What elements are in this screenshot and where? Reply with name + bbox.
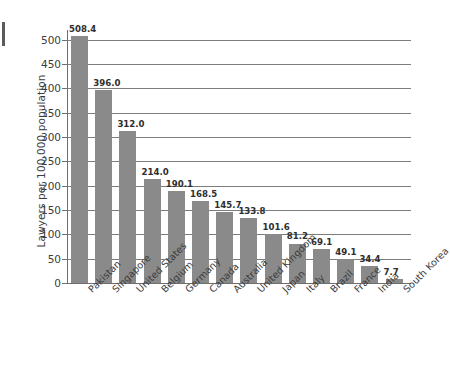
y-axis-tick-label: 100 xyxy=(21,229,61,240)
bar-value-label: 101.6 xyxy=(263,223,290,232)
y-axis-tick-label: 300 xyxy=(21,132,61,143)
bar-value-label: 214.0 xyxy=(142,168,169,177)
bar-value-label: 396.0 xyxy=(93,79,120,88)
bar[interactable] xyxy=(71,36,88,283)
gridline xyxy=(67,113,411,114)
gridline xyxy=(67,64,411,65)
y-axis-tick-mark xyxy=(62,283,67,284)
y-axis-tick-label: 150 xyxy=(21,205,61,216)
bar-value-label: 190.1 xyxy=(166,180,193,189)
y-axis-tick-label: 350 xyxy=(21,108,61,119)
bar[interactable] xyxy=(119,131,136,283)
gridline xyxy=(67,40,411,41)
bar-value-label: 49.1 xyxy=(335,248,356,257)
y-axis-tick-label: 0 xyxy=(21,278,61,289)
y-axis-tick-label: 400 xyxy=(21,83,61,94)
y-axis-tick-mark xyxy=(62,210,67,211)
bar-value-label: 508.4 xyxy=(69,25,96,34)
y-axis-tick-mark xyxy=(62,137,67,138)
scan-edge-artifact xyxy=(2,22,5,46)
y-axis-tick-mark xyxy=(62,234,67,235)
y-axis-tick-mark xyxy=(62,161,67,162)
y-axis-tick-label: 450 xyxy=(21,59,61,70)
y-axis-tick-mark xyxy=(62,259,67,260)
y-axis-tick-mark xyxy=(62,186,67,187)
y-axis-tick-label: 500 xyxy=(21,35,61,46)
bar-value-label: 34.4 xyxy=(359,255,380,264)
bar-value-label: 145.7 xyxy=(214,201,241,210)
y-axis-tick-label: 50 xyxy=(21,254,61,265)
bar[interactable] xyxy=(95,90,112,283)
y-axis-tick-mark xyxy=(62,64,67,65)
plot-area: 508.4396.0312.0214.0190.1168.5145.7133.8… xyxy=(67,30,411,283)
bar-value-label: 312.0 xyxy=(117,120,144,129)
y-axis-tick-label: 200 xyxy=(21,181,61,192)
bar-value-label: 168.5 xyxy=(190,190,217,199)
y-axis-tick-mark xyxy=(62,88,67,89)
bar-value-label: 133.8 xyxy=(238,207,265,216)
gridline xyxy=(67,88,411,89)
y-axis-tick-mark xyxy=(62,113,67,114)
y-axis-tick-mark xyxy=(62,40,67,41)
y-axis-tick-labels: 050100150200250300350400450500 xyxy=(16,30,61,283)
y-axis-tick-label: 250 xyxy=(21,156,61,167)
